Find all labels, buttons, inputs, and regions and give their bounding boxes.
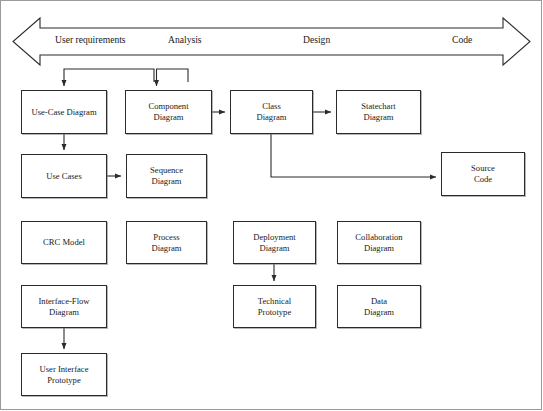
node-label: CRC Model (40, 237, 88, 248)
connector-layer (0, 0, 543, 411)
phase-label-design: Design (303, 34, 330, 45)
node-sequence-diagram[interactable]: Sequence Diagram (126, 154, 207, 198)
node-label: Sequence Diagram (147, 165, 186, 187)
node-collaboration-diagram[interactable]: Collaboration Diagram (337, 221, 421, 264)
node-label: Technical Prototype (255, 296, 294, 318)
edge-class-to-source-code (271, 134, 436, 177)
node-label: Use Cases (43, 171, 85, 182)
node-technical-prototype[interactable]: Technical Prototype (233, 285, 316, 328)
node-label: Statechart Diagram (358, 101, 398, 123)
phase-label-text: Analysis (168, 34, 202, 45)
node-crc-model[interactable]: CRC Model (21, 221, 107, 264)
phase-label-user-requirements: User requirements (55, 34, 126, 45)
phase-label-code: Code (452, 34, 472, 45)
node-use-cases[interactable]: Use Cases (21, 154, 107, 198)
phase-label-text: Design (303, 34, 330, 45)
node-interface-flow-diagram[interactable]: Interface-Flow Diagram (21, 285, 107, 328)
node-label: Data Diagram (361, 296, 397, 318)
node-label: Source Code (468, 163, 498, 185)
node-process-diagram[interactable]: Process Diagram (126, 221, 207, 264)
node-use-case-diagram[interactable]: Use-Case Diagram (21, 90, 107, 134)
node-label: Process Diagram (148, 232, 184, 254)
node-label: Deployment Diagram (250, 232, 298, 254)
node-label: User Interface Prototype (37, 364, 92, 386)
node-class-diagram[interactable]: Class Diagram (230, 90, 313, 134)
phase-label-text: Code (452, 34, 472, 45)
edge-feedback-into-use-case (64, 69, 154, 86)
node-label: Collaboration Diagram (352, 232, 405, 254)
node-data-diagram[interactable]: Data Diagram (337, 285, 421, 328)
node-label: Class Diagram (253, 101, 289, 123)
node-source-code[interactable]: Source Code (441, 152, 525, 196)
node-user-interface-prototype[interactable]: User Interface Prototype (21, 353, 107, 396)
node-statechart-diagram[interactable]: Statechart Diagram (336, 90, 421, 134)
phase-label-analysis: Analysis (168, 34, 202, 45)
node-label: Interface-Flow Diagram (35, 296, 92, 318)
node-deployment-diagram[interactable]: Deployment Diagram (233, 221, 316, 264)
node-component-diagram[interactable]: Component Diagram (125, 90, 212, 134)
edge-feedback-into-component (157, 69, 189, 86)
phase-label-text: User requirements (55, 34, 126, 45)
uml-phase-diagram: User requirements Analysis Design Code U… (0, 0, 543, 411)
node-label: Component Diagram (145, 101, 191, 123)
node-label: Use-Case Diagram (28, 107, 99, 118)
